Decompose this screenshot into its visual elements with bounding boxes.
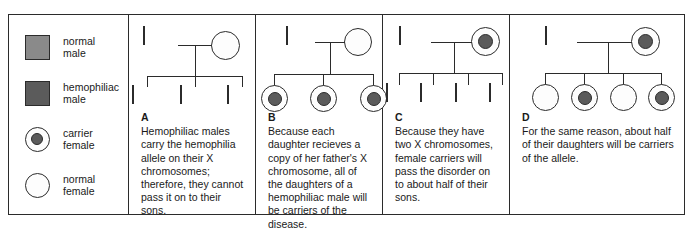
sibship-line <box>545 73 662 74</box>
child-normal-male <box>386 84 388 102</box>
caption-a: A Hemophiliac males carry the hemophilia… <box>129 111 255 218</box>
caption-c: C Because they have two X chromosomes, f… <box>383 111 509 204</box>
mother-carrier-female <box>471 27 500 56</box>
father-normal-male <box>399 27 401 45</box>
pedigree-chart-d <box>510 15 686 111</box>
legend-label-carrier-female: carrier female <box>63 127 95 152</box>
pedigree-figure: normal male hemophiliac male carrier fem… <box>8 14 685 215</box>
legend-label-hemophiliac-male: hemophiliac male <box>63 81 119 106</box>
normal-male-square-icon <box>20 35 54 60</box>
child-affected-male <box>489 84 491 102</box>
child-normal-male <box>227 86 229 104</box>
child-normal-female <box>610 84 637 111</box>
father-normal-male <box>545 27 547 45</box>
child-stem <box>242 76 243 87</box>
pedigree-chart-b <box>256 15 382 111</box>
panel-letter-a: A <box>141 111 247 124</box>
child-carrier-female <box>310 85 337 112</box>
descent-line <box>195 45 196 76</box>
hemophiliac-male-square-icon <box>20 81 54 106</box>
caption-d: D For the same reason, about half of the… <box>510 111 686 165</box>
panel-d: D For the same reason, about half of the… <box>510 15 686 214</box>
sibship-line <box>399 73 503 74</box>
father-affected-male <box>286 27 288 45</box>
child-stem <box>147 76 148 87</box>
legend-item-carrier-female: carrier female <box>9 116 128 162</box>
child-stem <box>399 73 400 85</box>
panel-a: A Hemophiliac males carry the hemophilia… <box>129 15 256 214</box>
normal-female-circle-icon <box>20 173 54 198</box>
child-carrier-female <box>261 85 288 112</box>
child-normal-female <box>532 84 559 111</box>
mother-normal-female <box>344 28 372 56</box>
panel-c: C Because they have two X chromosomes, f… <box>383 15 510 214</box>
mother-normal-female <box>211 31 240 60</box>
panel-b: B Because each daughter recieves a copy … <box>256 15 383 214</box>
descent-line <box>330 42 331 74</box>
child-stem <box>502 73 503 85</box>
pedigree-chart-a <box>129 15 255 111</box>
caption-text-c: Because they have two X chromosomes, fem… <box>395 125 493 203</box>
carrier-female-circle-icon <box>20 127 54 152</box>
caption-text-b: Because each daughter recieves a copy of… <box>268 125 367 229</box>
child-affected-male <box>420 84 422 102</box>
legend-item-normal-female: normal female <box>9 162 128 208</box>
child-normal-male <box>180 86 182 104</box>
child-carrier-female <box>648 84 675 111</box>
descent-line <box>608 42 609 73</box>
legend-panel: normal male hemophiliac male carrier fem… <box>9 15 129 214</box>
child-stem <box>195 76 196 87</box>
father-affected-male <box>143 27 145 45</box>
legend-item-normal-male: normal male <box>9 24 128 70</box>
pedigree-chart-c <box>383 15 509 111</box>
caption-text-d: For the same reason, about half of their… <box>522 125 674 163</box>
legend-label-normal-male: normal male <box>63 35 95 60</box>
panel-letter-d: D <box>522 111 678 124</box>
child-affected-male <box>455 84 457 102</box>
caption-b: B Because each daughter recieves a copy … <box>256 111 382 231</box>
child-normal-male <box>132 86 134 104</box>
child-stem <box>433 73 434 85</box>
panel-letter-b: B <box>268 111 374 124</box>
panel-letter-c: C <box>395 111 501 124</box>
child-carrier-female <box>571 84 598 111</box>
marriage-line <box>431 42 472 43</box>
child-stem <box>468 73 469 85</box>
legend-label-normal-female: normal female <box>63 173 95 198</box>
marriage-line <box>577 42 632 43</box>
descent-line <box>454 42 455 73</box>
legend-item-hemophiliac-male: hemophiliac male <box>9 70 128 116</box>
caption-text-a: Hemophiliac males carry the hemophilia a… <box>141 125 243 216</box>
mother-carrier-female <box>631 27 660 56</box>
